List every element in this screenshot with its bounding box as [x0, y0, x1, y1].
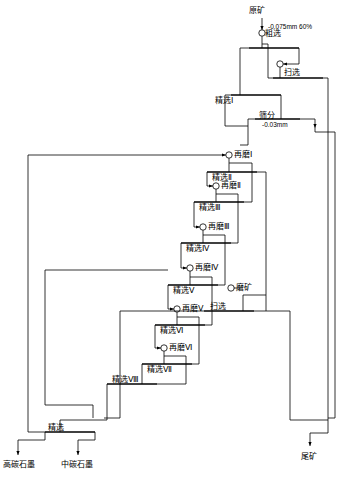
label-clean6: 精选Ⅵ — [160, 326, 183, 335]
regrind4-circle — [187, 265, 193, 271]
regrind6-circle — [161, 345, 167, 351]
label-regrind3: 再磨Ⅲ — [208, 222, 230, 231]
label-scav1: 扫选 — [284, 68, 300, 77]
label-high-carbon: 高碳石墨 — [3, 460, 35, 469]
label-regrind2: 再磨Ⅱ — [221, 181, 241, 190]
label-screen: 筛分 — [259, 111, 275, 120]
label-regrind6: 再磨Ⅵ — [169, 343, 192, 352]
label-scav2: 扫选 — [210, 302, 226, 311]
label-clean5: 精选Ⅴ — [173, 286, 194, 295]
label-tailings: 尾矿 — [301, 452, 317, 461]
label-clean7: 精选Ⅶ — [147, 365, 172, 374]
label-clean3: 精选Ⅲ — [199, 203, 221, 212]
regrind2-circle — [213, 183, 219, 189]
flowsheet-diagram: 原矿 -0.075mm 60% 粗选 扫选 精选Ⅰ 筛分 -0.03mm 再磨Ⅰ… — [0, 0, 339, 480]
regrind1-circle — [226, 152, 232, 158]
label-rough: 粗选 — [265, 29, 281, 38]
label-regrind4: 再磨Ⅳ — [195, 263, 218, 272]
label-regrind1: 再磨Ⅰ — [234, 150, 252, 159]
label-regrind5: 再磨Ⅴ — [182, 304, 203, 313]
label-grind: 磨矿 — [236, 283, 252, 292]
scav1-cell-circle — [277, 61, 283, 67]
label-clean1: 精选Ⅰ — [215, 96, 233, 105]
label-mid-carbon: 中碳石墨 — [61, 460, 93, 469]
label-final-clean: 精选 — [48, 423, 64, 432]
regrind3-circle — [200, 224, 206, 230]
grind-circle — [228, 285, 234, 291]
label-clean4: 精选Ⅳ — [186, 244, 209, 253]
label-ore: 原矿 — [249, 6, 265, 15]
label-screen-size: -0.03mm — [262, 120, 288, 129]
label-clean8: 精选Ⅷ — [112, 375, 139, 384]
